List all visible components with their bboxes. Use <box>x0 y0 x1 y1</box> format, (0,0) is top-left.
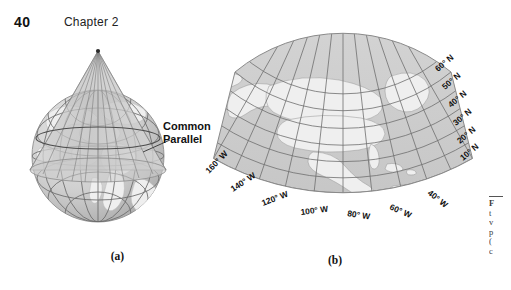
caption-line: c <box>489 247 511 257</box>
figure-panel-b: 60° N 50° N 40° N 30° N 20° N 10° N 160°… <box>195 28 475 278</box>
longitude-label: 120° W <box>260 189 289 208</box>
map-body <box>195 0 485 228</box>
caption-line: t <box>489 209 511 219</box>
caption-rule <box>489 196 503 197</box>
caption-line: ( <box>489 237 511 247</box>
common-parallel-callout: Common Parallel <box>163 120 211 145</box>
chapter-label: Chapter 2 <box>64 15 119 29</box>
figure-conic-projection: (a) <box>0 28 511 278</box>
conic-map-illustration: 60° N 50° N 40° N 30° N 20° N 10° N 160°… <box>195 28 485 258</box>
longitude-label: 140° W <box>229 170 258 193</box>
panel-b-label: (b) <box>195 254 475 266</box>
caption-line: p <box>489 228 511 238</box>
caption-line: F <box>489 199 511 209</box>
caption-line: v <box>489 218 511 228</box>
longitude-label: 40° W <box>426 188 450 210</box>
longitude-label: 60° W <box>388 202 413 220</box>
textbook-page: 40 Chapter 2 <box>0 0 511 290</box>
figure-panel-a: (a) <box>10 28 225 278</box>
longitude-label: 100° W <box>300 204 329 217</box>
longitude-label: 80° W <box>347 208 371 221</box>
cone-apex <box>96 49 100 53</box>
figure-caption-fragment: F t v p ( c <box>489 196 511 257</box>
panel-a-label: (a) <box>10 250 225 262</box>
